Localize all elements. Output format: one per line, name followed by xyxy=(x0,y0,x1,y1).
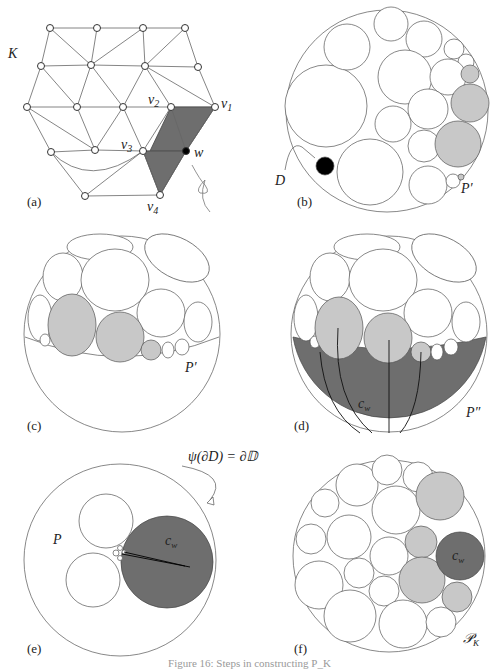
v3-label: v3 xyxy=(121,137,132,154)
vertex-w xyxy=(183,148,190,155)
packing-P-prime-label-c: P′ xyxy=(184,360,198,375)
w-label: w xyxy=(194,145,204,160)
v1-label: v1 xyxy=(221,96,232,113)
shaded-flower xyxy=(150,107,215,151)
v4-label: v4 xyxy=(147,199,158,216)
boundary-annotation: ψ(∂D) = ∂𝔻 xyxy=(188,449,259,465)
panel-c-label: (c) xyxy=(27,418,41,433)
panel-e-label: (e) xyxy=(27,641,41,656)
packing-P-double-prime-label: P″ xyxy=(465,405,481,420)
panel-f-label: (f) xyxy=(294,641,307,656)
packing-PK-label: 𝒫K xyxy=(463,631,480,648)
v2-label: v2 xyxy=(148,92,159,109)
packing-P-label: P xyxy=(52,532,62,547)
panel-d-label: (d) xyxy=(294,418,309,433)
panel-a-triangulation xyxy=(27,28,215,212)
panel-c-sphere xyxy=(24,224,220,432)
figure-caption: Figure 16: Steps in constructing P_K xyxy=(0,657,499,670)
panel-e-packing xyxy=(24,464,216,656)
panel-a-label: (a) xyxy=(27,194,41,209)
complex-label: K xyxy=(7,46,18,61)
figure-canvas: K v1 v2 v3 v4 w (a) D P′ (b) xyxy=(0,0,499,670)
disk-D xyxy=(316,157,334,175)
disk-D-label: D xyxy=(274,173,285,188)
panel-b-packing xyxy=(285,7,489,212)
packing-P-prime-label: P′ xyxy=(460,181,474,196)
panel-d-sphere xyxy=(291,224,487,433)
panel-b-label: (b) xyxy=(297,194,312,209)
